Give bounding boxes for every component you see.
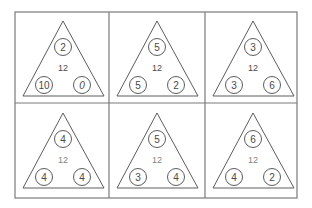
top-number: 6 <box>250 134 256 145</box>
triangle-cell-4: 4 12 4 4 <box>23 113 104 188</box>
bottom-left-number: 4 <box>231 172 237 183</box>
top-number: 4 <box>60 134 66 145</box>
grid-outline <box>15 12 297 198</box>
center-number: 12 <box>248 63 258 73</box>
bottom-left-number: 10 <box>38 80 50 91</box>
bottom-right-number: 0 <box>79 80 85 91</box>
center-number: 12 <box>58 63 68 73</box>
top-number: 2 <box>60 42 66 53</box>
top-number: 5 <box>154 134 160 145</box>
bottom-right-number: 2 <box>173 80 179 91</box>
bottom-right-number: 4 <box>173 172 179 183</box>
number-bond-worksheet: 2 12 10 0 5 12 5 2 3 12 3 6 4 12 4 4 <box>0 0 312 208</box>
top-number: 3 <box>250 42 256 53</box>
bottom-left-number: 4 <box>41 172 47 183</box>
triangle-cell-3: 3 12 3 6 <box>213 21 294 96</box>
triangle-cell-1: 2 12 10 0 <box>23 21 104 96</box>
bottom-left-number: 3 <box>231 80 237 91</box>
center-number: 12 <box>152 63 162 73</box>
triangle-cell-6: 6 12 4 2 <box>213 113 294 188</box>
bottom-right-number: 2 <box>269 172 275 183</box>
center-number: 12 <box>248 155 258 165</box>
center-number: 12 <box>58 155 68 165</box>
triangle-cell-2: 5 12 5 2 <box>117 21 198 96</box>
bottom-right-number: 6 <box>269 80 275 91</box>
top-number: 5 <box>154 42 160 53</box>
triangle-cell-5: 5 12 3 4 <box>117 113 198 188</box>
bottom-left-number: 5 <box>135 80 141 91</box>
bottom-right-number: 4 <box>79 172 85 183</box>
center-number: 12 <box>152 155 162 165</box>
bottom-left-number: 3 <box>135 172 141 183</box>
